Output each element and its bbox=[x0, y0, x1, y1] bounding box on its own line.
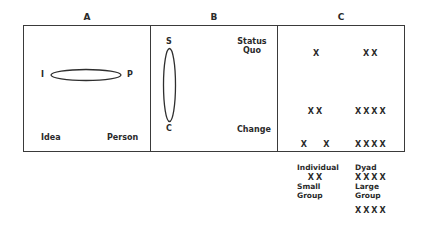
label-status-quo: Status Quo bbox=[232, 37, 272, 55]
label-quo: Quo bbox=[232, 46, 272, 55]
label-change: Change bbox=[237, 125, 271, 134]
legend-dyad: Dyad bbox=[355, 163, 377, 172]
small-group-marks: XX X X XX bbox=[296, 84, 336, 194]
label-c: C bbox=[166, 124, 172, 133]
status-change-ellipse bbox=[164, 49, 176, 122]
legend-individual: Individual bbox=[297, 163, 339, 172]
label-status: Status bbox=[232, 37, 272, 46]
legend-large-group: Large Group bbox=[355, 182, 381, 200]
large-group-row: XXXX bbox=[355, 106, 388, 117]
legend-small-group: Small Group bbox=[297, 182, 323, 200]
label-i: I bbox=[41, 70, 44, 79]
legend-group: Group bbox=[297, 191, 323, 200]
small-group-row: X X bbox=[296, 139, 336, 150]
dyad-mark: XX bbox=[363, 48, 379, 59]
label-idea: Idea bbox=[41, 133, 61, 142]
label-s: S bbox=[166, 37, 172, 46]
individual-mark: X bbox=[313, 48, 321, 59]
legend-group: Group bbox=[355, 191, 381, 200]
label-person: Person bbox=[107, 133, 138, 142]
label-p: P bbox=[127, 70, 133, 79]
legend-large: Large bbox=[355, 182, 381, 191]
large-group-row: XXXX bbox=[355, 205, 388, 216]
large-group-row: XXXX bbox=[355, 139, 388, 150]
small-group-row: XX bbox=[296, 106, 336, 117]
legend-small: Small bbox=[297, 182, 323, 191]
idea-person-ellipse bbox=[51, 70, 121, 81]
